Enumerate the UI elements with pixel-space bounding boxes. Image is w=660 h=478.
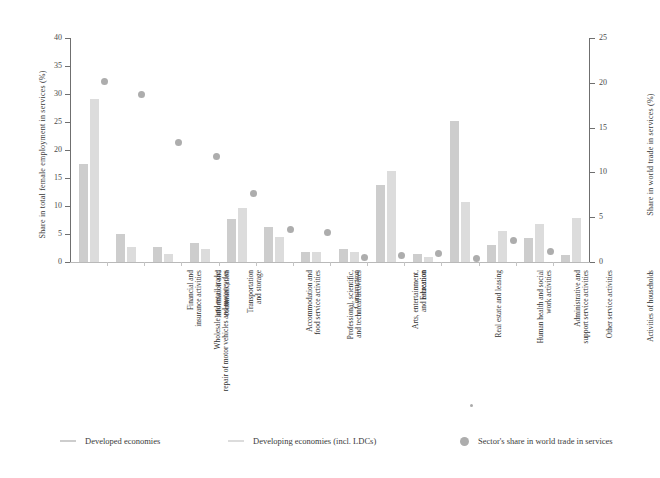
x-axis-category-label: Administrative and support service activ… bbox=[575, 270, 592, 343]
bar-developed bbox=[561, 255, 570, 262]
x-axis-category-label: Accommodation and food service activitie… bbox=[306, 270, 323, 335]
y-axis-right-tick-label: 0 bbox=[599, 258, 617, 266]
y-axis-left-tick-label: 10 bbox=[44, 202, 62, 210]
trade-share-dot bbox=[287, 226, 294, 233]
bar-developing bbox=[535, 224, 544, 262]
category-separator bbox=[256, 262, 257, 266]
bar-developed bbox=[301, 252, 310, 262]
y-axis-right-tick bbox=[590, 128, 595, 129]
chart-legend: Developed economiesDeveloping economies … bbox=[60, 430, 605, 452]
category-separator bbox=[293, 262, 294, 266]
category-separator bbox=[367, 262, 368, 266]
bar-developed bbox=[376, 185, 385, 262]
bar-developed bbox=[450, 121, 459, 262]
x-axis-category-label: Transportation and storage bbox=[247, 270, 264, 313]
x-axis-category-label: Human health and social work activities bbox=[537, 270, 554, 343]
legend-line-icon bbox=[228, 440, 244, 442]
category-separator bbox=[516, 262, 517, 266]
category-separator bbox=[441, 262, 442, 266]
chart-figure: Share in total female employment in serv… bbox=[0, 0, 660, 478]
y-axis-right-tick-label: 15 bbox=[599, 124, 617, 132]
trade-share-dot bbox=[213, 153, 220, 160]
bar-developing bbox=[350, 252, 359, 262]
y-axis-right-tick bbox=[590, 217, 595, 218]
bar-developed bbox=[524, 238, 533, 262]
trade-share-dot bbox=[435, 250, 442, 257]
y-axis-left-tick-label: 35 bbox=[44, 62, 62, 70]
bar-developed bbox=[153, 247, 162, 262]
x-axis-category-label: Construction bbox=[354, 270, 362, 308]
bar-developing bbox=[312, 252, 321, 262]
bar-developed bbox=[487, 245, 496, 262]
x-axis-category-label: Real estate and leasing bbox=[494, 270, 502, 338]
bar-developing bbox=[90, 99, 99, 262]
category-separator bbox=[553, 262, 554, 266]
bar-developing bbox=[238, 208, 247, 262]
y-axis-right-tick bbox=[590, 83, 595, 84]
y-axis-left-tick-label: 0 bbox=[44, 258, 62, 266]
y-axis-left-tick-label: 25 bbox=[44, 118, 62, 126]
bar-developing bbox=[164, 254, 173, 262]
trade-share-dot bbox=[473, 255, 480, 262]
y-axis-right-tick-label: 25 bbox=[599, 34, 617, 42]
trade-share-dot bbox=[101, 78, 108, 85]
legend-label: Developing economies (incl. LDCs) bbox=[253, 436, 376, 446]
y-axis-right-tick-label: 10 bbox=[599, 168, 617, 176]
trade-share-dot bbox=[138, 91, 145, 98]
bar-developing bbox=[424, 257, 433, 262]
y-axis-left-tick bbox=[65, 262, 70, 263]
y-axis-left-tick-label: 15 bbox=[44, 174, 62, 182]
legend-label: Sector's share in world trade in service… bbox=[478, 436, 613, 446]
y-axis-right-tick bbox=[590, 172, 595, 173]
bar-developed bbox=[413, 254, 422, 262]
category-separator bbox=[330, 262, 331, 266]
bar-developing bbox=[275, 237, 284, 262]
x-axis-category-label: Activities of households bbox=[647, 270, 655, 342]
y-axis-right-tick-label: 5 bbox=[599, 213, 617, 221]
y-axis-right-tick bbox=[590, 38, 595, 39]
y-axis-left-tick-label: 20 bbox=[44, 146, 62, 154]
trade-share-dot bbox=[250, 190, 257, 197]
y-axis-right-tick-label: 20 bbox=[599, 79, 617, 87]
legend-item[interactable]: Sector's share in world trade in service… bbox=[460, 430, 613, 452]
category-separator bbox=[404, 262, 405, 266]
bar-developing bbox=[498, 231, 507, 262]
x-axis-category-label: Financial and insurance activities bbox=[187, 270, 204, 327]
trade-share-dot bbox=[398, 252, 405, 259]
bar-developing bbox=[127, 247, 136, 262]
bar-developed bbox=[339, 249, 348, 262]
bar-developing bbox=[387, 171, 396, 262]
category-separator bbox=[181, 262, 182, 266]
bar-developing bbox=[461, 202, 470, 262]
trade-share-dot bbox=[361, 254, 368, 261]
x-axis-category-label: Education bbox=[420, 270, 428, 300]
category-separator bbox=[107, 262, 108, 266]
bar-developed bbox=[264, 227, 273, 262]
trade-share-dot bbox=[175, 139, 182, 146]
legend-item[interactable]: Developing economies (incl. LDCs) bbox=[228, 430, 376, 452]
legend-item[interactable]: Developed economies bbox=[60, 430, 160, 452]
bar-developed bbox=[79, 164, 88, 262]
bar-developing bbox=[572, 218, 581, 262]
trade-share-dot bbox=[510, 237, 517, 244]
y-axis-right-tick bbox=[590, 262, 595, 263]
legend-dot-icon bbox=[460, 437, 469, 446]
legend-line-icon bbox=[60, 440, 76, 442]
legend-label: Developed economies bbox=[85, 436, 160, 446]
bar-developed bbox=[190, 243, 199, 262]
y-axis-left-tick-label: 5 bbox=[44, 230, 62, 238]
x-axis-category-label: Other service activities bbox=[606, 270, 614, 338]
x-axis-category-label: Information and communication bbox=[215, 270, 232, 318]
category-separator bbox=[479, 262, 480, 266]
y-axis-left-tick-label: 30 bbox=[44, 90, 62, 98]
y-axis-left-tick-label: 40 bbox=[44, 34, 62, 42]
bar-developed bbox=[227, 219, 236, 262]
category-separator bbox=[144, 262, 145, 266]
category-separator bbox=[219, 262, 220, 266]
y-axis-right-title: Share in world trade in services (%) bbox=[646, 45, 655, 265]
bar-developing bbox=[201, 249, 210, 262]
trade-share-dot bbox=[547, 248, 554, 255]
scan-artifact-dot bbox=[470, 404, 473, 407]
plot-area bbox=[70, 38, 590, 262]
trade-share-dot bbox=[324, 229, 331, 236]
